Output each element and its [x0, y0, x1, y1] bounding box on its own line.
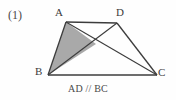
vertex-label-d: D	[116, 7, 124, 18]
shaded-triangle-abp	[48, 22, 96, 75]
edge-dc	[117, 23, 157, 75]
edge-ad	[66, 22, 117, 23]
geometry-figure: (1) A D B C AD // BC	[0, 0, 176, 100]
vertex-label-a: A	[55, 7, 63, 18]
problem-number-label: (1)	[8, 9, 22, 21]
vertex-label-c: C	[158, 67, 165, 78]
figure-caption: AD // BC	[0, 84, 176, 94]
vertex-label-b: B	[35, 66, 42, 77]
